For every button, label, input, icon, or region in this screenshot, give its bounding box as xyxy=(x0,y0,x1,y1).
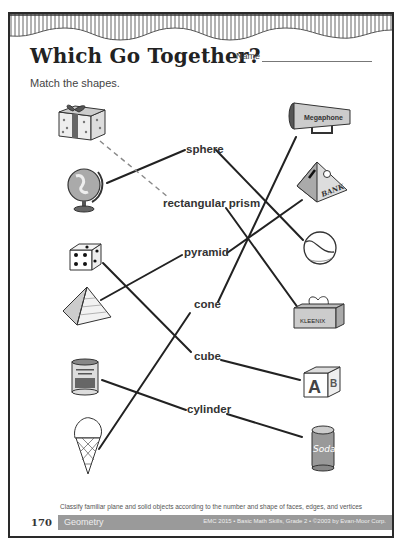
bank-picture: BANK xyxy=(295,160,349,204)
block-letter-a: A xyxy=(308,377,321,397)
standard-note: Classify familiar plane and solid object… xyxy=(60,503,362,510)
alphabet-block-picture: A B xyxy=(302,363,342,399)
matching-lines xyxy=(0,0,405,546)
tissue-box-picture: KLEENIX xyxy=(292,292,346,332)
gift-box-picture xyxy=(57,100,107,142)
line-can-cylinder xyxy=(102,380,186,410)
ice-cream-cone-picture xyxy=(72,416,104,476)
soda-can-label: Soda xyxy=(313,444,335,454)
pyramid-picture xyxy=(61,285,115,327)
word-sphere: sphere xyxy=(186,143,224,155)
footer-bar: Geometry EMC 2015 • Basic Math Skills, G… xyxy=(58,515,392,530)
baseball-picture xyxy=(302,230,338,266)
copyright: EMC 2015 • Basic Math Skills, Grade 2 • … xyxy=(203,518,386,524)
word-rectangular-prism: rectangular prism xyxy=(163,197,260,209)
page-number: 170 xyxy=(31,517,52,528)
line-gift-prism-dashed xyxy=(100,141,168,197)
megaphone-picture: Megaphone xyxy=(288,100,352,138)
word-pyramid: pyramid xyxy=(184,246,229,258)
globe-picture xyxy=(62,164,108,214)
line-cylinder-soda xyxy=(227,414,302,437)
megaphone-label: Megaphone xyxy=(304,114,343,122)
die-picture xyxy=(68,242,104,272)
section-label: Geometry xyxy=(64,517,104,527)
line-die-cube xyxy=(103,263,191,352)
line-sphere-baseball xyxy=(216,150,303,240)
tissue-box-label: KLEENIX xyxy=(300,318,325,324)
word-cylinder: cylinder xyxy=(187,403,231,415)
line-globe-sphere xyxy=(107,150,185,183)
block-letter-b: B xyxy=(330,378,337,389)
line-icecream-cone xyxy=(99,313,190,449)
soda-can-picture: Soda xyxy=(310,424,336,472)
line-cube-block xyxy=(221,360,300,380)
word-cone: cone xyxy=(194,298,221,310)
word-cube: cube xyxy=(194,350,221,362)
can-picture xyxy=(70,358,100,396)
